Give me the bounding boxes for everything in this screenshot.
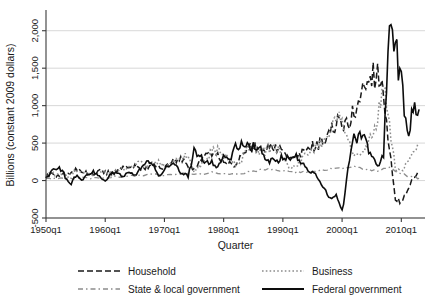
legend-label: Business [312,266,353,277]
x-tick-label: 1950q1 [30,224,62,235]
x-tick-label: 1970q1 [149,224,181,235]
y-tick-label: 0 [29,178,40,183]
legend-label: State & local government [128,284,240,295]
chart-svg: -50005001,0001,5002,000 1950q11960q11970… [0,0,438,304]
y-tick-label: 2,000 [29,19,40,43]
legend-label: Household [128,266,176,277]
x-tick-label: 1960q1 [89,224,121,235]
x-tick-label: 2010q1 [385,224,417,235]
y-tick-label: 500 [29,135,40,151]
x-tick-label: 2000q1 [326,224,358,235]
x-tick-label: 1990q1 [267,224,299,235]
legend-label: Federal government [312,284,402,295]
x-tick-label: 1980q1 [208,224,240,235]
y-axis-title: Billions (constant 2009 dollars) [4,44,16,187]
y-tick-label: 1,500 [29,56,40,80]
chart-background [0,0,438,304]
x-axis-title: Quarter [218,239,254,251]
chart-figure: -50005001,0001,5002,000 1950q11960q11970… [0,0,438,304]
y-tick-label: 1,000 [29,94,40,118]
